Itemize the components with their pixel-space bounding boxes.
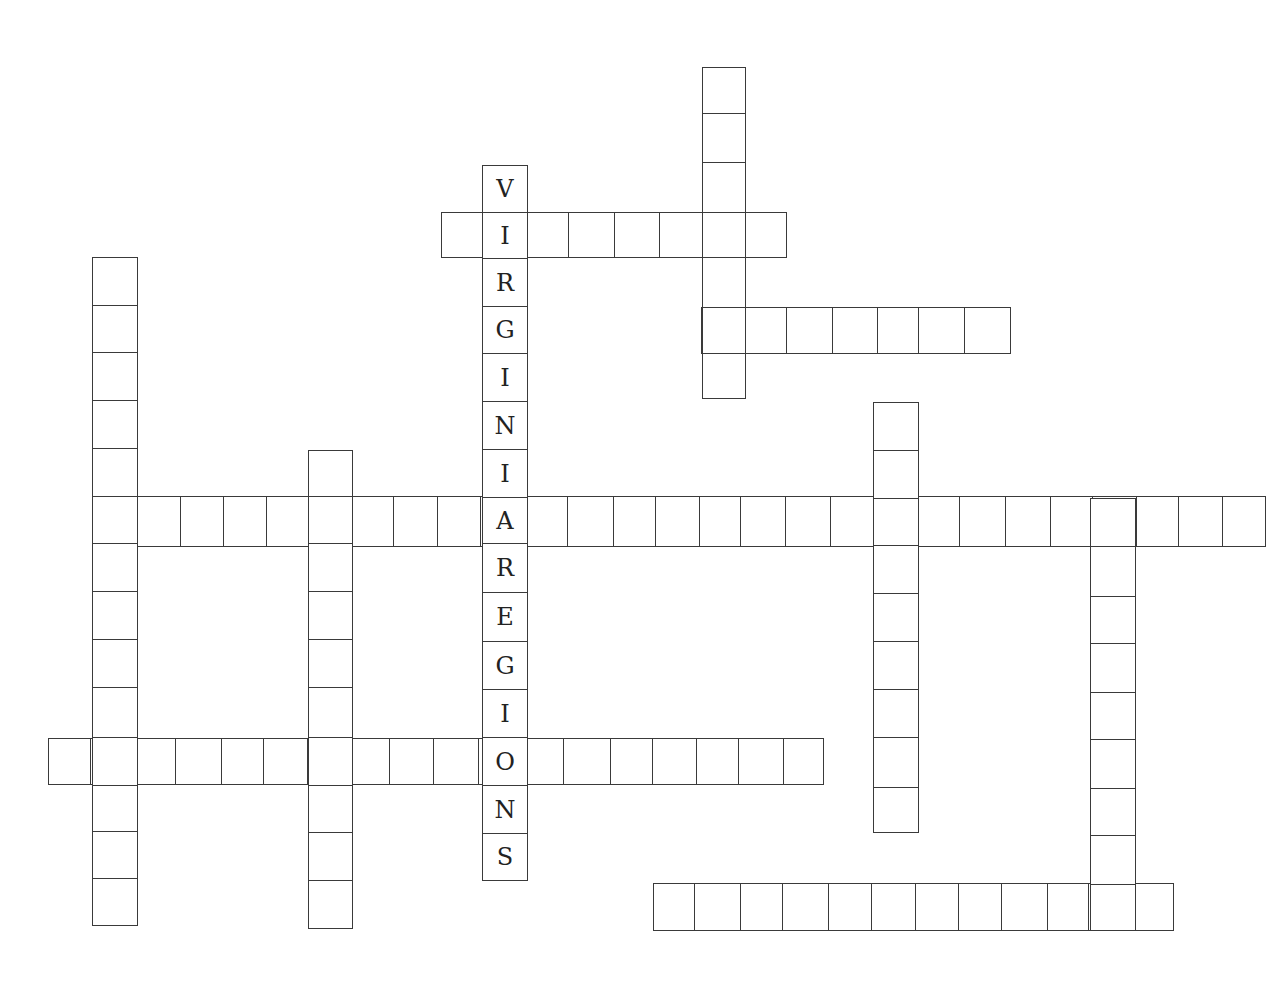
crossword-cell[interactable] xyxy=(783,738,824,785)
crossword-cell[interactable] xyxy=(433,738,479,785)
crossword-cell[interactable] xyxy=(918,496,960,547)
crossword-cell[interactable] xyxy=(877,307,919,354)
crossword-cell[interactable] xyxy=(740,883,783,931)
crossword-cell[interactable] xyxy=(652,738,697,785)
crossword-cell[interactable] xyxy=(92,448,138,497)
crossword-cell[interactable] xyxy=(915,883,959,931)
crossword-cell[interactable] xyxy=(702,67,746,114)
crossword-cell[interactable] xyxy=(614,212,660,258)
crossword-cell[interactable] xyxy=(871,883,916,931)
crossword-cell[interactable] xyxy=(1090,692,1136,740)
crossword-cell[interactable] xyxy=(263,738,308,785)
crossword-cell[interactable]: V xyxy=(482,165,528,213)
crossword-cell[interactable]: E xyxy=(482,592,528,642)
crossword-cell[interactable] xyxy=(696,738,739,785)
crossword-cell[interactable] xyxy=(1090,884,1136,931)
crossword-cell[interactable] xyxy=(745,212,787,258)
crossword-cell[interactable] xyxy=(782,883,829,931)
crossword-cell[interactable] xyxy=(48,738,91,785)
crossword-cell[interactable] xyxy=(92,591,138,640)
crossword-cell[interactable] xyxy=(393,496,438,547)
crossword-cell[interactable] xyxy=(92,257,138,306)
crossword-cell[interactable] xyxy=(308,639,353,688)
crossword-cell[interactable] xyxy=(308,832,353,881)
crossword-cell[interactable] xyxy=(964,307,1011,354)
crossword-cell[interactable]: R xyxy=(482,258,528,307)
crossword-cell[interactable] xyxy=(568,212,615,258)
crossword-cell[interactable] xyxy=(1050,496,1093,547)
crossword-cell[interactable] xyxy=(92,639,138,688)
crossword-cell[interactable]: I xyxy=(482,212,528,259)
crossword-cell[interactable] xyxy=(266,496,310,547)
crossword-cell[interactable] xyxy=(786,307,833,354)
crossword-cell[interactable] xyxy=(92,831,138,879)
crossword-cell[interactable] xyxy=(738,738,784,785)
crossword-cell[interactable] xyxy=(873,787,919,833)
crossword-cell[interactable] xyxy=(1001,883,1048,931)
crossword-cell[interactable] xyxy=(702,257,746,308)
crossword-cell[interactable] xyxy=(308,496,353,544)
crossword-cell[interactable] xyxy=(92,400,138,449)
crossword-cell[interactable] xyxy=(873,545,919,594)
crossword-cell[interactable] xyxy=(873,593,919,642)
crossword-cell[interactable] xyxy=(832,307,878,354)
crossword-cell[interactable] xyxy=(175,738,222,785)
crossword-cell[interactable] xyxy=(1090,498,1136,547)
crossword-cell[interactable] xyxy=(308,737,353,786)
crossword-cell[interactable] xyxy=(702,162,746,213)
crossword-cell[interactable] xyxy=(308,880,353,929)
crossword-cell[interactable] xyxy=(308,785,353,833)
crossword-cell[interactable] xyxy=(1090,788,1136,836)
crossword-cell[interactable]: I xyxy=(482,689,528,738)
crossword-cell[interactable] xyxy=(828,883,872,931)
crossword-cell[interactable]: R xyxy=(482,543,528,593)
crossword-cell[interactable] xyxy=(1132,883,1174,931)
crossword-cell[interactable] xyxy=(653,883,695,931)
crossword-cell[interactable] xyxy=(745,307,787,354)
crossword-cell[interactable] xyxy=(702,212,746,258)
crossword-cell[interactable] xyxy=(180,496,224,547)
crossword-cell[interactable] xyxy=(527,212,569,258)
crossword-cell[interactable] xyxy=(1090,739,1136,789)
crossword-cell[interactable] xyxy=(308,591,353,640)
crossword-cell[interactable] xyxy=(563,738,611,785)
crossword-cell[interactable]: A xyxy=(482,497,528,544)
crossword-cell[interactable]: I xyxy=(482,449,528,498)
crossword-cell[interactable] xyxy=(918,307,965,354)
crossword-cell[interactable] xyxy=(702,113,746,163)
crossword-cell[interactable] xyxy=(525,496,568,547)
crossword-cell[interactable] xyxy=(567,496,614,547)
crossword-cell[interactable]: N xyxy=(482,785,528,834)
crossword-cell[interactable] xyxy=(699,496,741,547)
crossword-cell[interactable] xyxy=(350,738,390,785)
crossword-cell[interactable] xyxy=(221,738,264,785)
crossword-cell[interactable] xyxy=(959,496,1006,547)
crossword-cell[interactable] xyxy=(1090,835,1136,885)
crossword-cell[interactable] xyxy=(830,496,874,547)
crossword-cell[interactable] xyxy=(958,883,1002,931)
crossword-cell[interactable] xyxy=(92,543,138,592)
crossword-cell[interactable] xyxy=(92,785,138,832)
crossword-cell[interactable]: O xyxy=(482,737,528,786)
crossword-cell[interactable] xyxy=(389,738,434,785)
crossword-cell[interactable] xyxy=(873,450,919,499)
crossword-cell[interactable] xyxy=(1047,883,1089,931)
crossword-cell[interactable] xyxy=(437,496,481,547)
crossword-cell[interactable] xyxy=(136,496,181,547)
crossword-cell[interactable] xyxy=(873,641,919,690)
crossword-cell[interactable] xyxy=(1222,496,1266,547)
crossword-cell[interactable] xyxy=(785,496,831,547)
crossword-cell[interactable] xyxy=(134,738,176,785)
crossword-cell[interactable] xyxy=(702,307,746,354)
crossword-cell[interactable] xyxy=(308,543,353,592)
crossword-cell[interactable] xyxy=(1136,496,1179,547)
crossword-cell[interactable] xyxy=(702,353,746,399)
crossword-cell[interactable] xyxy=(92,687,138,738)
crossword-cell[interactable] xyxy=(1090,596,1136,644)
crossword-cell[interactable] xyxy=(659,212,704,258)
crossword-cell[interactable] xyxy=(92,878,138,926)
crossword-cell[interactable]: S xyxy=(482,833,528,881)
crossword-cell[interactable] xyxy=(613,496,656,547)
crossword-cell[interactable] xyxy=(1005,496,1051,547)
crossword-cell[interactable] xyxy=(92,496,138,544)
